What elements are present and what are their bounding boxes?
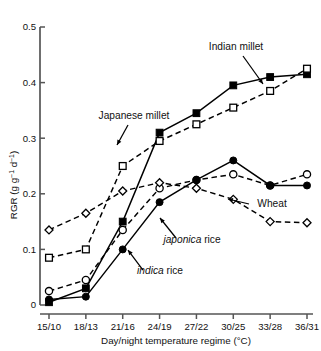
data-point-filled-square xyxy=(119,218,126,225)
data-point-filled-square xyxy=(267,74,274,81)
x-tick-label: 18/13 xyxy=(74,321,98,332)
y-tick-label: 0.2 xyxy=(23,188,36,199)
y-tick-label: 0.5 xyxy=(23,21,36,32)
data-point-open-circle xyxy=(303,171,310,178)
data-point-open-square xyxy=(156,138,163,145)
data-point-filled-square xyxy=(230,82,237,89)
data-point-open-square xyxy=(119,163,126,170)
annotation-label: Wheat xyxy=(257,198,287,209)
x-tick-labels: 15/1018/1321/1624/1927/2230/2533/2836/31 xyxy=(37,321,319,332)
annotation-label: japonica rice xyxy=(161,234,221,245)
data-point-filled-square xyxy=(82,285,89,292)
data-point-filled-square xyxy=(193,110,200,117)
data-point-open-circle xyxy=(45,288,52,295)
y-tick-label: 0.3 xyxy=(23,133,36,144)
annotation-label: Indian millet xyxy=(209,41,264,52)
data-point-open-diamond xyxy=(266,218,274,226)
y-tick-label: 0 xyxy=(31,299,36,310)
series-japanese-millet xyxy=(49,69,307,258)
series-line xyxy=(49,69,307,258)
y-tick-label: 0.4 xyxy=(23,77,37,88)
x-tick-label: 30/25 xyxy=(221,321,245,332)
x-tick-label: 33/28 xyxy=(258,321,282,332)
leader-japanese-millet xyxy=(117,125,128,145)
data-point-open-square xyxy=(230,104,237,111)
data-point-open-square xyxy=(46,254,53,261)
data-point-open-square xyxy=(82,246,89,253)
x-tick-label: 21/16 xyxy=(111,321,135,332)
annotation-label: indica rice xyxy=(137,265,183,276)
data-point-open-circle xyxy=(82,276,89,283)
data-point-filled-circle xyxy=(304,182,311,189)
y-tick-label: 0.1 xyxy=(23,244,36,255)
data-point-filled-circle xyxy=(230,157,237,164)
y-tick-labels: 00.10.20.30.40.5 xyxy=(23,21,37,310)
y-axis-title: RGR (g g−1 d−1) xyxy=(8,151,19,219)
data-point-filled-circle xyxy=(119,246,126,253)
markers-japanese-millet xyxy=(46,65,311,261)
data-point-open-diamond xyxy=(303,219,311,227)
data-point-open-diamond xyxy=(119,187,127,195)
data-point-open-diamond xyxy=(192,184,200,192)
data-point-open-square xyxy=(304,65,311,72)
data-point-open-square xyxy=(267,88,274,95)
series-annotations: Indian milletJapanese milletWheatjaponic… xyxy=(99,41,287,276)
data-point-open-diamond xyxy=(82,209,90,217)
data-point-filled-circle xyxy=(193,176,200,183)
data-point-filled-circle xyxy=(46,296,53,303)
x-tick-label: 36/31 xyxy=(295,321,319,332)
data-point-open-circle xyxy=(230,171,237,178)
x-tick-label: 27/22 xyxy=(184,321,208,332)
data-point-filled-circle xyxy=(156,199,163,206)
data-point-filled-circle xyxy=(267,182,274,189)
x-tick-label: 24/19 xyxy=(148,321,172,332)
data-point-filled-square xyxy=(156,129,163,136)
x-axis-title: Day/night temperature regime (°C) xyxy=(101,335,251,346)
rgr-temperature-line-chart: 00.10.20.30.40.5 15/1018/1321/1624/1927/… xyxy=(0,0,321,351)
data-point-open-diamond xyxy=(45,226,53,234)
x-tick-label: 15/10 xyxy=(37,321,61,332)
data-point-open-circle xyxy=(119,226,126,233)
data-point-open-square xyxy=(193,121,200,128)
leader-indian-millet xyxy=(243,56,263,84)
y-axis-title-group: RGR (g g−1 d−1) xyxy=(8,151,19,219)
data-point-filled-circle xyxy=(82,293,89,300)
chart-figure: 00.10.20.30.40.5 15/1018/1321/1624/1927/… xyxy=(0,0,321,351)
annotation-label: Japanese millet xyxy=(99,110,170,121)
